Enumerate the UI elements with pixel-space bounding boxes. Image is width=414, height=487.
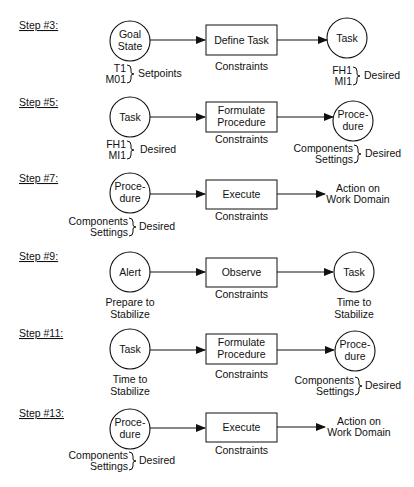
source-line-1: Alert [119, 266, 141, 278]
step-label: Step #13: [19, 407, 64, 419]
annotation-item: Settings [90, 460, 128, 472]
step-label: Step #7: [19, 172, 58, 184]
brace-icon [353, 67, 360, 85]
brace-label: Desired [364, 69, 400, 81]
source-line-1: Task [119, 343, 141, 355]
brace-label: Desired [365, 379, 401, 391]
source-caption: Time to [113, 373, 148, 385]
process-caption: Constraints [215, 368, 268, 380]
flow-diagram: Step #3: Goal State T1 M01 Setpoints Def… [0, 0, 414, 487]
source-line-1: Goal [119, 28, 141, 40]
brace-label: Desired [140, 143, 176, 155]
brace-label: Setpoints [138, 67, 182, 79]
brace-icon [354, 145, 361, 163]
process-label: Define Task [214, 34, 269, 46]
annotation-item: Settings [315, 153, 353, 165]
brace-label: Desired [139, 454, 175, 466]
process-label: Observe [222, 266, 262, 278]
source-caption: Stabilize [110, 385, 150, 397]
step-label: Step #3: [19, 19, 58, 31]
process-label: Formulate [218, 104, 265, 116]
target-line-2: dure [344, 350, 365, 362]
source-line-1: Task [119, 111, 141, 123]
brace-icon [127, 141, 134, 159]
target-caption: Time to [337, 296, 372, 308]
source-caption: Stabilize [110, 308, 150, 320]
source-line-2: State [118, 40, 143, 52]
step-label: Step #5: [19, 96, 58, 108]
annotation-item: M01 [106, 73, 127, 85]
target-line-2: Work Domain [326, 193, 390, 205]
process-caption: Constraints [215, 288, 268, 300]
target-line-2: dure [342, 120, 363, 132]
annotation-item: Settings [316, 385, 354, 397]
target-line-1: Proce- [338, 108, 369, 120]
step-3: Step #3: Goal State T1 M01 Setpoints Def… [19, 18, 400, 87]
step-7: Step #7: Proce- dure Components Settings… [19, 172, 390, 238]
brace-icon [127, 65, 134, 83]
process-caption: Constraints [215, 133, 268, 145]
target-line-1: Task [336, 32, 358, 44]
source-line-1: Proce- [115, 180, 146, 192]
brace-icon [355, 377, 362, 395]
process-caption: Constraints [215, 210, 268, 222]
source-caption: Prepare to [105, 296, 154, 308]
brace-icon [129, 218, 136, 236]
target-line-1: Proce- [340, 338, 371, 350]
source-line-2: dure [119, 192, 140, 204]
source-line-1: Proce- [115, 416, 146, 428]
annotation-item: Settings [90, 226, 128, 238]
step-label: Step #9: [19, 250, 58, 262]
process-caption: Constraints [215, 444, 268, 456]
process-label: Formulate [218, 336, 265, 348]
annotation-item: MI1 [334, 75, 352, 87]
brace-label: Desired [139, 220, 175, 232]
step-9: Step #9: Alert Prepare to Stabilize Obse… [19, 250, 374, 320]
process-label: Procedure [217, 116, 266, 128]
source-line-2: dure [119, 428, 140, 440]
target-caption: Stabilize [334, 308, 374, 320]
target-line-1: Task [343, 266, 365, 278]
step-13: Step #13: Proce- dure Components Setting… [19, 407, 391, 472]
process-label: Procedure [217, 348, 266, 360]
step-5: Step #5: Task FH1 MI1 Desired Formulate … [19, 96, 401, 165]
annotation-item: MI1 [108, 149, 126, 161]
brace-label: Desired [365, 147, 401, 159]
process-label: Execute [223, 421, 261, 433]
process-label: Execute [223, 188, 261, 200]
process-caption: Constraints [215, 60, 268, 72]
step-label: Step #11: [19, 327, 63, 339]
step-11: Step #11: Task Time to Stabilize Formula… [19, 327, 401, 397]
brace-icon [129, 452, 136, 470]
target-line-2: Work Domain [327, 426, 391, 438]
